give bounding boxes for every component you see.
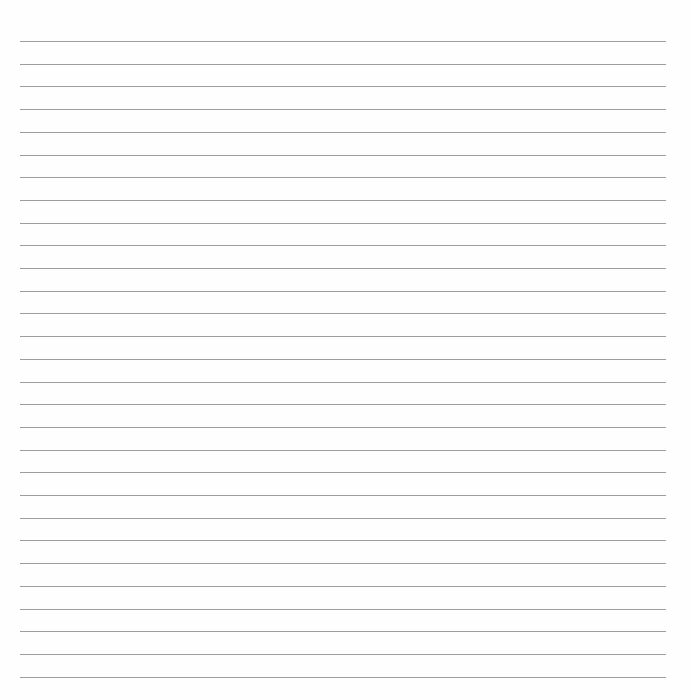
ruled-line <box>20 200 666 201</box>
ruled-line <box>20 109 666 110</box>
ruled-line <box>20 427 666 428</box>
ruled-line <box>20 313 666 314</box>
ruled-line <box>20 586 666 587</box>
ruled-line <box>20 563 666 564</box>
ruled-line <box>20 654 666 655</box>
ruled-line <box>20 609 666 610</box>
ruled-line <box>20 132 666 133</box>
ruled-line <box>20 540 666 541</box>
ruled-line <box>20 177 666 178</box>
ruled-line <box>20 64 666 65</box>
ruled-line <box>20 495 666 496</box>
ruled-line <box>20 223 666 224</box>
ruled-line <box>20 291 666 292</box>
ruled-line <box>20 336 666 337</box>
ruled-line <box>20 86 666 87</box>
ruled-line <box>20 450 666 451</box>
ruled-line <box>20 518 666 519</box>
ruled-line <box>20 41 666 42</box>
ruled-line <box>20 404 666 405</box>
ruled-line <box>20 359 666 360</box>
ruled-line <box>20 155 666 156</box>
ruled-line <box>20 245 666 246</box>
ruled-line <box>20 268 666 269</box>
lined-paper-sheet <box>0 0 693 700</box>
ruled-line <box>20 631 666 632</box>
ruled-line <box>20 382 666 383</box>
ruled-line <box>20 472 666 473</box>
ruled-line <box>20 677 666 678</box>
